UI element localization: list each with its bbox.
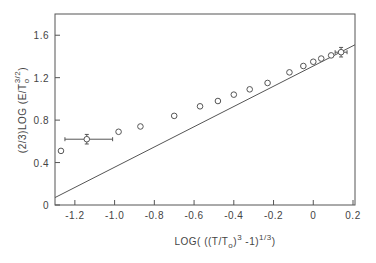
y-tick-label: 0.4 [34, 158, 49, 169]
data-point-marker [84, 136, 90, 142]
x-tick-label: -1.2 [65, 210, 84, 221]
x-tick-label: -0.8 [145, 210, 164, 221]
x-tick-label: 0 [310, 210, 316, 221]
y-axis-ticks: 00.40.81.21.6 [34, 30, 60, 211]
data-point-marker [338, 49, 344, 55]
data-point-marker [116, 129, 122, 135]
y-axis-title: (2/3)LOG (E/To3/2) [13, 67, 31, 153]
x-axis-ticks: -1.2-1.0-0.8-0.6-0.4-0.200.2 [65, 200, 360, 221]
y-tick-label: 1.6 [34, 30, 49, 41]
y-tick-label: 0.8 [34, 115, 49, 126]
x-tick-label: -1.0 [105, 210, 124, 221]
data-point-marker [318, 56, 324, 62]
data-point-marker [197, 104, 203, 110]
x-tick-label: -0.4 [224, 210, 243, 221]
data-point-marker [301, 63, 307, 69]
plot-frame [55, 14, 355, 205]
data-point-marker [58, 148, 64, 154]
y-tick-label: 1.2 [34, 73, 49, 84]
data-point-marker [231, 92, 237, 98]
fit-line [55, 45, 355, 198]
x-axis-title: LOG( ((T/To)3 -1)1/3) [174, 233, 275, 250]
scatter-chart: -1.2-1.0-0.8-0.6-0.4-0.200.2 00.40.81.21… [0, 0, 376, 263]
data-points [58, 47, 347, 153]
y-tick-label: 0 [43, 200, 49, 211]
data-point-marker [328, 53, 334, 59]
data-point-marker [215, 98, 221, 104]
data-point-marker [138, 124, 144, 130]
data-point-marker [265, 80, 271, 86]
data-point-marker [247, 87, 253, 93]
x-tick-label: 0.2 [345, 210, 360, 221]
x-tick-label: -0.2 [264, 210, 283, 221]
data-point-marker [287, 70, 293, 76]
data-point-marker [310, 59, 316, 65]
x-tick-label: -0.6 [184, 210, 203, 221]
data-point-marker [171, 113, 177, 119]
